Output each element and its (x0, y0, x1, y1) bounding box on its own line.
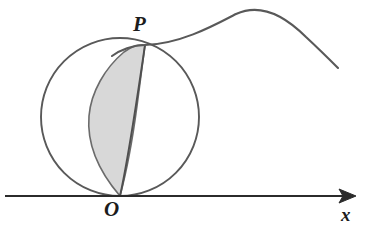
shaded-lens-region (89, 45, 145, 196)
axis-label-x: x (341, 205, 351, 224)
point-label-P: P (133, 14, 146, 35)
point-label-O: O (104, 199, 119, 220)
figure-canvas (0, 0, 377, 231)
geometry-figure: P O x (0, 0, 377, 231)
